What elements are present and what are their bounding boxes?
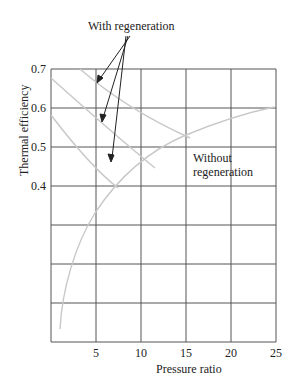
with-regeneration-label: With regeneration (88, 19, 174, 33)
y-axis-label: Thermal efficiency (17, 85, 32, 176)
without-regeneration-curve (60, 107, 274, 329)
grid-lines (51, 69, 276, 342)
x-tick-20: 20 (219, 346, 243, 361)
without-regeneration-label-line1: Without (193, 151, 232, 165)
x-tick-10: 10 (129, 346, 153, 361)
x-axis-label: Pressure ratio (156, 362, 222, 376)
x-tick-5: 5 (84, 346, 108, 361)
y-tick-0.4: 0.4 (16, 179, 46, 194)
without-regeneration-label-line2: regeneration (193, 165, 253, 179)
regeneration-curve-2 (51, 78, 155, 168)
regeneration-curve-3 (51, 115, 118, 188)
y-tick-0.7: 0.7 (16, 62, 46, 77)
x-tick-25: 25 (264, 346, 288, 361)
x-tick-15: 15 (174, 346, 198, 361)
